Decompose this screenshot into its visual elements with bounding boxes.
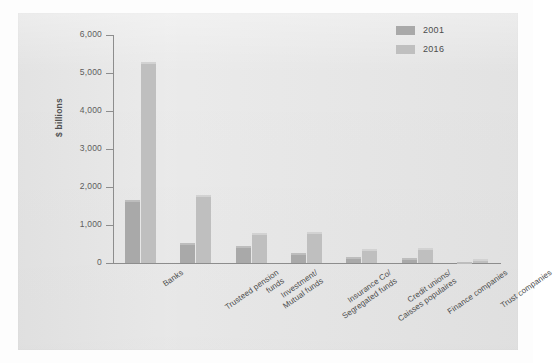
y-axis-tick-label: 5,000 bbox=[80, 67, 102, 77]
bar-cap bbox=[236, 246, 251, 248]
bar-group bbox=[168, 35, 223, 263]
bar-2001[interactable] bbox=[180, 243, 195, 263]
legend-label-2016: 2016 bbox=[423, 44, 444, 54]
bar-cap bbox=[180, 243, 195, 245]
bar-cap bbox=[141, 62, 156, 64]
chart-panel: $ billions 01,0002,0003,0004,0005,0006,0… bbox=[18, 13, 518, 350]
y-axis-tick: 6,000 bbox=[106, 35, 113, 36]
legend-label-2001: 2001 bbox=[423, 25, 444, 35]
bar-2016[interactable] bbox=[141, 62, 156, 263]
y-axis-tick-label: 2,000 bbox=[80, 181, 102, 191]
bar-cap bbox=[196, 195, 211, 197]
bar-cap bbox=[307, 232, 322, 234]
y-axis-tick: 4,000 bbox=[106, 111, 113, 112]
y-axis-tick-label: 3,000 bbox=[80, 143, 102, 153]
bar-cap bbox=[291, 253, 306, 255]
x-axis-label: Investment/ Mutual funds bbox=[276, 268, 326, 311]
y-axis-tick: 3,000 bbox=[106, 149, 113, 150]
bar-face bbox=[180, 243, 195, 263]
y-axis-tick: 2,000 bbox=[106, 187, 113, 188]
legend-swatch-2016 bbox=[396, 45, 415, 54]
x-axis-line bbox=[113, 263, 501, 264]
bar-face bbox=[418, 248, 433, 263]
bar-face bbox=[252, 233, 267, 263]
bar-2016[interactable] bbox=[473, 259, 488, 263]
x-axis-label: Credit unions/ Caisses populaires bbox=[390, 268, 458, 324]
bar-2016[interactable] bbox=[252, 233, 267, 263]
bar-face bbox=[125, 200, 140, 263]
bar-2016[interactable] bbox=[196, 195, 211, 263]
chart-legend: 2001 2016 bbox=[396, 25, 444, 63]
bar-group bbox=[445, 35, 500, 263]
bar-cap bbox=[346, 257, 361, 259]
bar-2001[interactable] bbox=[402, 258, 417, 263]
bar-cap bbox=[457, 262, 472, 264]
bar-cap bbox=[418, 248, 433, 250]
bar-group bbox=[113, 35, 168, 263]
bar-cap bbox=[402, 258, 417, 260]
plot-area bbox=[113, 35, 500, 263]
bar-group bbox=[389, 35, 444, 263]
bar-2001[interactable] bbox=[291, 253, 306, 263]
bar-cap bbox=[362, 249, 377, 251]
x-axis-label: Insurance Co/ Segregated funds bbox=[334, 268, 399, 322]
y-axis-tick: 1,000 bbox=[106, 225, 113, 226]
bar-2016[interactable] bbox=[307, 232, 322, 263]
y-axis-tick: 0 bbox=[106, 263, 113, 264]
y-axis-tick-label: 6,000 bbox=[80, 29, 102, 39]
legend-item-2001[interactable]: 2001 bbox=[396, 25, 444, 35]
y-axis-title: $ billions bbox=[54, 98, 64, 137]
y-axis-tick: 5,000 bbox=[106, 73, 113, 74]
bar-cap bbox=[473, 259, 488, 261]
bar-2001[interactable] bbox=[346, 257, 361, 263]
bar-2016[interactable] bbox=[418, 248, 433, 263]
x-axis-label: Banks bbox=[161, 268, 185, 289]
bar-group bbox=[279, 35, 334, 263]
bar-cap bbox=[252, 233, 267, 235]
bar-cap bbox=[125, 200, 140, 202]
y-axis-tick-label: 1,000 bbox=[80, 219, 102, 229]
bar-face bbox=[196, 195, 211, 263]
bar-face bbox=[307, 232, 322, 263]
bar-group bbox=[224, 35, 279, 263]
bar-2001[interactable] bbox=[125, 200, 140, 263]
bar-2016[interactable] bbox=[362, 249, 377, 263]
legend-item-2016[interactable]: 2016 bbox=[396, 44, 444, 54]
x-axis-label: Finance companies bbox=[446, 268, 510, 317]
bar-2001[interactable] bbox=[457, 262, 472, 263]
legend-swatch-2001 bbox=[396, 26, 415, 35]
bar-face bbox=[362, 249, 377, 263]
bar-face bbox=[141, 62, 156, 263]
y-axis-tick-label: 4,000 bbox=[80, 105, 102, 115]
y-axis-tick-label: 0 bbox=[97, 257, 102, 267]
bar-group bbox=[334, 35, 389, 263]
bar-2001[interactable] bbox=[236, 246, 251, 263]
bar-face bbox=[236, 246, 251, 263]
